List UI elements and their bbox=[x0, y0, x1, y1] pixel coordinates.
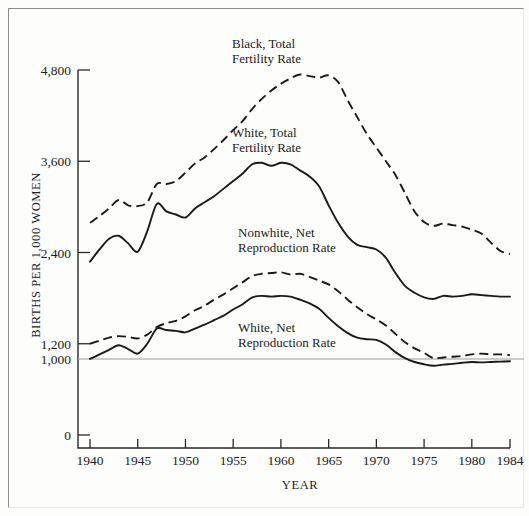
y-tick-label-0: 0 bbox=[64, 428, 71, 443]
x-tick-label-1940: 1940 bbox=[77, 453, 104, 468]
chart-series-annotations: Black, TotalFertility RateWhite, TotalFe… bbox=[232, 36, 336, 350]
x-tick-label-1945: 1945 bbox=[124, 453, 151, 468]
series-label-white-total-fertility-rate: White, TotalFertility Rate bbox=[232, 125, 301, 155]
x-tick-label-1950: 1950 bbox=[172, 453, 199, 468]
x-tick-label-1960: 1960 bbox=[267, 453, 294, 468]
y-axis-title: BIRTHS PER 1,000 WOMEN bbox=[29, 172, 43, 338]
series-curve-white-net-reproduction-rate bbox=[90, 296, 510, 366]
fertility-rate-line-chart: 01,0001,2002,4003,6004,80019401945195019… bbox=[0, 0, 529, 516]
y-tick-label-4800: 4,800 bbox=[41, 63, 72, 78]
series-label-black-total-fertility-rate: Black, TotalFertility Rate bbox=[232, 36, 301, 66]
chart-series-curves bbox=[90, 75, 510, 366]
axis-corner-elbow bbox=[78, 435, 90, 448]
y-tick-label-2400: 2,400 bbox=[41, 246, 72, 261]
y-tick-label-1000: 1,000 bbox=[41, 352, 72, 367]
x-tick-label-1975: 1975 bbox=[411, 453, 438, 468]
x-tick-label-1980: 1980 bbox=[458, 453, 485, 468]
x-axis-title: YEAR bbox=[282, 478, 318, 492]
series-label-nonwhite-net-reproduction-rate: Nonwhite, NetReproduction Rate bbox=[238, 225, 336, 255]
x-tick-label-1965: 1965 bbox=[315, 453, 342, 468]
chart-tick-labels: 01,0001,2002,4003,6004,80019401945195019… bbox=[41, 63, 524, 468]
series-label-white-net-reproduction-rate: White, NetReproduction Rate bbox=[238, 320, 336, 350]
y-tick-label-1200: 1,200 bbox=[41, 337, 72, 352]
x-tick-label-1970: 1970 bbox=[363, 453, 390, 468]
x-tick-label-1984: 1984 bbox=[497, 453, 524, 468]
x-tick-label-1955: 1955 bbox=[220, 453, 247, 468]
y-tick-label-3600: 3,600 bbox=[41, 154, 72, 169]
chart-page: 01,0001,2002,4003,6004,80019401945195019… bbox=[0, 0, 529, 516]
